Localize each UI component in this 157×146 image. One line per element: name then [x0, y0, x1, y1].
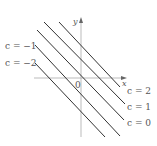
level-line-c--2 [35, 63, 105, 137]
label-c-neg2: c = −2 [5, 58, 37, 68]
level-line-c-1 [44, 22, 125, 104]
label-c-0: c = 0 [127, 118, 151, 128]
label-c-2: c = 2 [127, 86, 151, 96]
label-c-1: c = 1 [127, 102, 151, 112]
origin-label: 0 [75, 80, 81, 90]
level-line-c-2 [59, 22, 120, 87]
level-line-c-0 [37, 30, 124, 120]
level-line-c--1 [35, 45, 120, 136]
y-axis-label: y [72, 17, 78, 26]
level-curves-diagram: y x 0 c = −1 c = −2 c = 2 c = 1 c = 0 [0, 0, 157, 146]
y-axis-arrow-icon [79, 17, 83, 23]
label-c-neg1: c = −1 [5, 41, 37, 51]
